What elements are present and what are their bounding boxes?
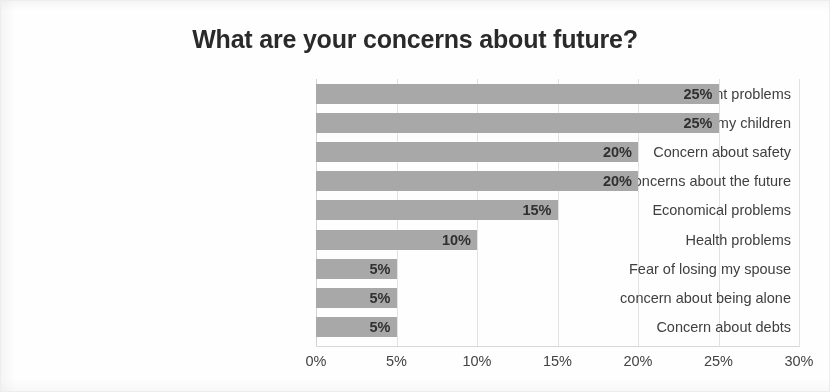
bar-value-label: 15% [522,202,551,218]
bar: 15% [316,200,558,220]
category-label: Health problems [685,232,791,248]
bar-value-label: 20% [603,173,632,189]
x-axis-line [316,346,800,347]
bar-value-label: 25% [683,86,712,102]
bar: 20% [316,142,638,162]
gridline [799,79,800,346]
bar-row: I have no concerns about the future20% [316,167,799,196]
bar-row: Fear of losing my spouse5% [316,254,799,283]
chart-title: What are your concerns about future? [1,25,829,54]
x-tick-label: 0% [286,353,346,369]
bar: 25% [316,113,719,133]
bar-value-label: 20% [603,144,632,160]
plot-area: Unemployment problems25%Concern about th… [316,79,799,346]
bar: 5% [316,317,397,337]
category-label: Fear of losing my spouse [629,261,791,277]
bar-row: Economical problems15% [316,196,799,225]
bar-value-label: 25% [683,115,712,131]
x-tick-label: 25% [689,353,749,369]
bar-value-label: 5% [370,319,391,335]
bar-value-label: 10% [442,232,471,248]
bar-row: Concern about debts5% [316,313,799,342]
bar-value-label: 5% [370,290,391,306]
bar: 5% [316,288,397,308]
x-tick-label: 20% [608,353,668,369]
bar-row: Health problems10% [316,225,799,254]
bar-row: concern about being alone5% [316,283,799,312]
bar: 20% [316,171,638,191]
x-tick-label: 10% [447,353,507,369]
bar: 5% [316,259,397,279]
bar-row: Concern about the future of my children2… [316,108,799,137]
x-tick-label: 30% [769,353,829,369]
bar-row: Unemployment problems25% [316,79,799,108]
chart-figure: What are your concerns about future? Une… [0,0,830,392]
category-label: Economical problems [652,202,791,218]
category-label: Concern about safety [653,144,791,160]
x-tick-label: 5% [367,353,427,369]
bar: 10% [316,230,477,250]
x-tick-label: 15% [528,353,588,369]
bar: 25% [316,84,719,104]
bar-row: Concern about safety20% [316,137,799,166]
category-label: Concern about debts [656,319,791,335]
bar-value-label: 5% [370,261,391,277]
category-label: concern about being alone [620,290,791,306]
